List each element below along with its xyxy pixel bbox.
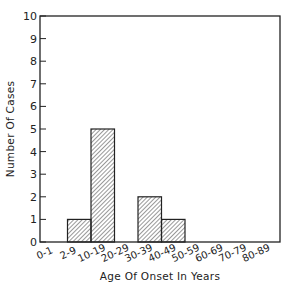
x-axis: 0-12-910-1920-2930-3940-4950-5960-6970-7… <box>35 242 272 264</box>
y-tick-label: 3 <box>30 168 37 181</box>
histogram-chart: 012345678910 0-12-910-1920-2930-3940-495… <box>0 0 290 291</box>
y-tick-label: 10 <box>23 10 37 23</box>
bar-2-9 <box>68 219 92 242</box>
bar-10-19 <box>91 129 115 242</box>
y-tick-label: 2 <box>30 191 37 204</box>
y-tick-label: 0 <box>30 236 37 249</box>
y-tick-label: 1 <box>30 213 37 226</box>
y-tick-label: 4 <box>30 146 37 159</box>
y-axis: 012345678910 <box>23 10 46 249</box>
x-tick-label: 0-1 <box>35 244 54 261</box>
y-tick-label: 5 <box>30 123 37 136</box>
y-axis-title: Number Of Cases <box>4 81 16 177</box>
x-tick-label: 80-89 <box>241 242 272 264</box>
bars <box>68 129 186 242</box>
x-tick-label: 2-9 <box>58 244 77 261</box>
bar-40-49 <box>162 219 186 242</box>
y-tick-label: 9 <box>30 33 37 46</box>
x-axis-title: Age Of Onset In Years <box>100 270 220 282</box>
y-tick-label: 6 <box>30 100 37 113</box>
y-tick-label: 8 <box>30 55 37 68</box>
y-tick-label: 7 <box>30 78 37 91</box>
bar-30-39 <box>138 197 162 242</box>
